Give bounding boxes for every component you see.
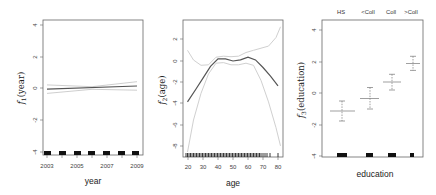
lower-se-line [188, 63, 281, 152]
x-tick-label: 80 [275, 164, 282, 170]
y-tick-label: -4 [311, 153, 317, 159]
y-axis-title: f1(year) [16, 72, 27, 106]
y-tick-label: 4 [32, 23, 38, 27]
y-tick-label: 0 [311, 91, 317, 95]
plot-frame [183, 20, 283, 157]
y-tick-label: -2 [32, 117, 38, 123]
x-axis-title: age [226, 178, 240, 188]
x-tick-labels: 2003 2005 2007 2009 [40, 163, 144, 169]
x-axis-title: year [85, 176, 102, 186]
category-label: Coll [386, 9, 396, 15]
y-tick-label: -2 [311, 122, 317, 128]
plot-frame [322, 20, 423, 157]
rug [44, 151, 139, 155]
y-axis [319, 30, 322, 156]
x-tick-label: 50 [230, 164, 237, 170]
errorbar-lt-coll [360, 88, 379, 110]
y-tick-label: -6 [172, 122, 178, 128]
x-axis [47, 155, 137, 158]
x-tick-label: 70 [260, 164, 267, 170]
rug [186, 153, 278, 157]
lower-se-line [47, 89, 137, 93]
x-axis [188, 157, 278, 160]
panel-age: 2 0 -2 -4 -6 -8 f2(age) 20 30 40 50 60 7… [157, 20, 283, 188]
x-tick-label: 20 [185, 164, 192, 170]
errorbar-coll [383, 74, 401, 90]
x-tick-label: 40 [215, 164, 222, 170]
rug [337, 153, 414, 157]
y-axis [40, 25, 43, 152]
panel-education: 4 2 0 -2 -4 f3(education) HS <Coll Coll … [296, 9, 423, 179]
errorbar-hs [330, 101, 355, 121]
errorbar-gt-coll [406, 56, 420, 70]
panel-year: 4 2 0 -2 -4 f1(year) 2003 2005 2007 2009… [16, 20, 144, 186]
category-label: HS [337, 9, 345, 15]
y-axis-title: f3(education) [296, 62, 307, 119]
x-tick-labels: 20 30 40 50 60 70 80 [185, 164, 282, 170]
y-tick-labels: 2 0 -2 -4 -6 -8 [172, 37, 178, 149]
y-axis-title: f2(age) [157, 75, 168, 105]
x-tick-label: 30 [200, 164, 207, 170]
x-tick-label: 2005 [70, 163, 84, 169]
y-tick-label: 0 [32, 86, 38, 90]
y-tick-labels: 4 2 0 -2 -4 [311, 28, 317, 159]
category-label: >Coll [404, 9, 417, 15]
y-axis [180, 39, 183, 146]
x-tick-label: 2007 [100, 163, 114, 169]
y-tick-label: 0 [172, 59, 178, 63]
x-tick-label: 60 [245, 164, 252, 170]
error-bars [330, 56, 420, 121]
y-tick-label: 2 [311, 60, 317, 64]
x-tick-label: 2003 [40, 163, 54, 169]
y-tick-labels: 4 2 0 -2 -4 [32, 23, 38, 155]
gam-figure: 4 2 0 -2 -4 f1(year) 2003 2005 2007 2009… [0, 0, 436, 195]
category-labels: HS <Coll Coll >Coll [337, 9, 418, 15]
category-label: <Coll [361, 9, 374, 15]
x-tick-label: 2009 [130, 163, 144, 169]
fit-line [188, 57, 279, 102]
y-tick-label: 2 [32, 55, 38, 59]
y-tick-label: 4 [311, 28, 317, 32]
upper-se-line [188, 27, 281, 66]
y-tick-label: -8 [172, 143, 178, 149]
y-tick-label: -4 [32, 149, 38, 155]
y-tick-label: 2 [172, 37, 178, 41]
y-tick-label: -4 [172, 100, 178, 106]
y-tick-label: -2 [172, 79, 178, 85]
x-axis-title: education [357, 169, 394, 179]
